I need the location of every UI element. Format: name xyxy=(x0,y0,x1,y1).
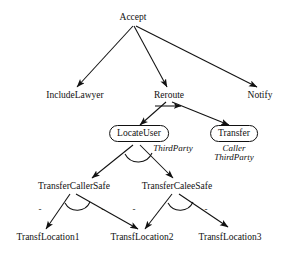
edge-transfercaleesafe-transflocation2 xyxy=(145,194,172,229)
edge-reroute-transfer xyxy=(172,102,229,125)
node-include-lawyer[interactable]: IncludeLawyer xyxy=(46,90,104,101)
node-notify[interactable]: Notify xyxy=(248,90,273,101)
edge-marker-dash-4: - xyxy=(205,204,208,215)
edge-marker-dash-2: - xyxy=(102,204,105,215)
edge-transfercaleesafe-transflocation3 xyxy=(179,194,228,227)
node-transf-location-3[interactable]: TransfLocation3 xyxy=(199,232,262,243)
diagram-canvas: Accept IncludeLawyer Reroute Notify Loca… xyxy=(0,0,283,257)
node-transf-location-1[interactable]: TransfLocation1 xyxy=(17,232,80,243)
edge-transfercallersafe-transflocation1 xyxy=(46,194,70,229)
annotation-third-party-line: ThirdParty xyxy=(214,153,254,162)
edge-accept-notify xyxy=(136,26,257,87)
edge-transfercallersafe-transflocation2 xyxy=(76,194,138,229)
node-accept[interactable]: Accept xyxy=(120,12,147,23)
annotation-third-party-line-1: ThirdParty xyxy=(153,144,193,153)
annotation-third-party: ThirdParty xyxy=(153,144,193,153)
node-transfer-caller-safe[interactable]: TransferCallerSafe xyxy=(38,181,110,192)
node-transf-location-2[interactable]: TransfLocation2 xyxy=(111,232,174,243)
node-transfer-calee-safe[interactable]: TransferCaleeSafe xyxy=(142,181,212,192)
edge-locateuser-transfercallersafe xyxy=(92,145,133,178)
node-reroute[interactable]: Reroute xyxy=(154,90,184,101)
edge-accept-includelawyer xyxy=(77,26,133,87)
node-transfer[interactable]: Transfer xyxy=(210,125,258,142)
node-locate-user[interactable]: LocateUser xyxy=(109,125,169,142)
annotation-caller-third-party: Caller ThirdParty xyxy=(214,144,254,161)
and-arc-transfercallersafe xyxy=(65,202,90,210)
edge-accept-reroute xyxy=(134,26,167,87)
and-arc-transfercaleesafe xyxy=(168,202,193,210)
and-arc-locateuser xyxy=(125,153,152,162)
edge-marker-dash-3: - xyxy=(133,204,136,215)
edge-marker-dash-1: - xyxy=(39,204,42,215)
edge-reroute-locateuser xyxy=(140,102,166,125)
